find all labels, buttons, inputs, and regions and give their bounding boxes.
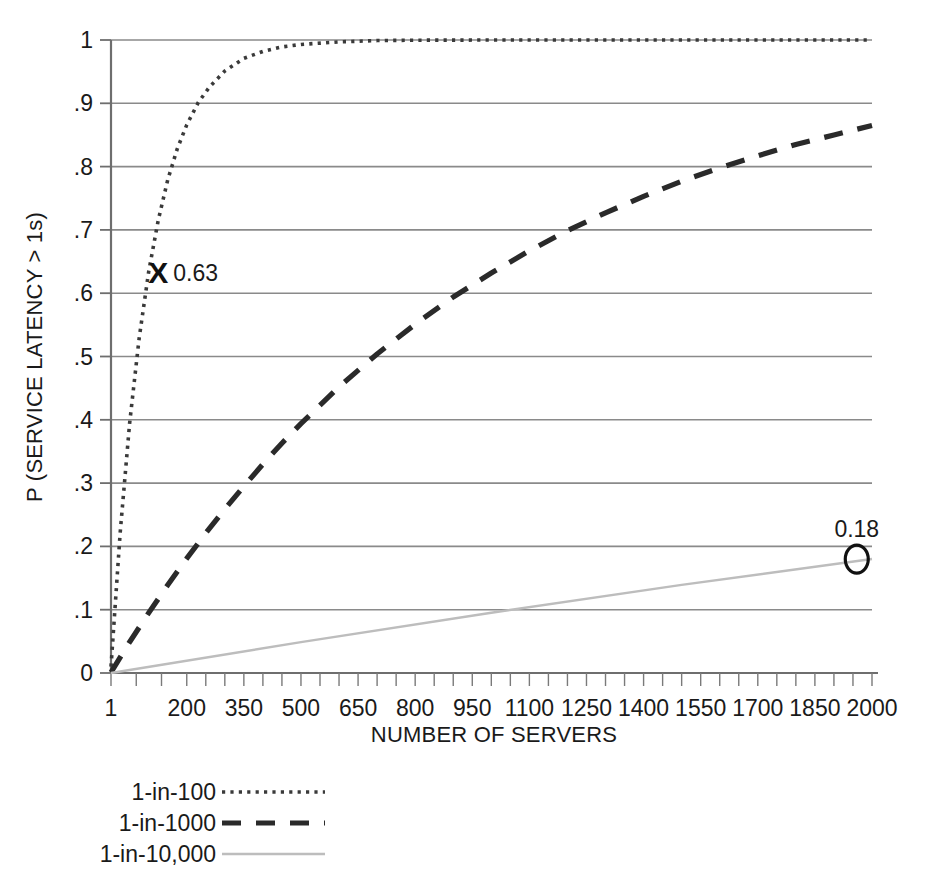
y-tick-label: .8 [74,154,93,180]
x-tick-label: 800 [396,695,434,721]
y-tick-label: .5 [74,344,93,370]
y-tick-label: 1 [80,27,93,53]
x-tick-label: 1550 [675,695,726,721]
y-axis-title: P (SERVICE LATENCY > 1s) [22,212,47,502]
annotation-label: 0.63 [173,260,218,286]
y-tick-label: 0 [80,660,93,686]
x-tick-labels: 1200350500650800950110012501400155017001… [105,695,898,721]
x-tick-label: 1400 [618,695,669,721]
y-tick-label: .1 [74,597,93,623]
series-line-1-in-10-000 [111,559,872,673]
y-tick-labels: 0.1.2.3.4.5.6.7.8.91 [74,27,93,686]
chart-legend: 1-in-1001-in-10001-in-10,000 [100,779,325,867]
legend-item-label: 1-in-100 [132,779,216,805]
chart-svg: 0.1.2.3.4.5.6.7.8.91 1200350500650800950… [0,0,948,882]
x-tick-label: 1700 [732,695,783,721]
chart-container: 0.1.2.3.4.5.6.7.8.91 1200350500650800950… [0,0,948,882]
x-tick-label: 2000 [846,695,897,721]
x-tick-label: 350 [225,695,263,721]
x-tick-label: 1100 [505,695,554,721]
x-tick-label: 500 [282,695,320,721]
annotations: X0.630.18 [148,256,879,573]
legend-item-label: 1-in-10,000 [100,841,216,867]
legend-item-label: 1-in-1000 [119,810,216,836]
x-tick-label: 1850 [789,695,840,721]
y-tick-label: .2 [74,533,93,559]
series-line-1-in-1000 [111,125,872,672]
annotation-marker-x-icon: X [148,256,168,289]
gridlines-horizontal [111,40,872,610]
y-tick-label: .4 [74,407,93,433]
series-line-1-in-100 [111,40,872,667]
annotation-label: 0.18 [834,516,879,542]
x-tick-label: 200 [168,695,206,721]
x-tick-label: 1250 [561,695,612,721]
y-tick-label: .9 [74,90,93,116]
x-tick-label: 650 [339,695,377,721]
x-tick-label: 950 [453,695,491,721]
x-axis-title: NUMBER OF SERVERS [371,722,617,747]
x-tick-label: 1 [105,695,118,721]
y-tick-marks [100,40,111,673]
x-tick-marks [111,673,872,686]
y-tick-label: .6 [74,280,93,306]
y-tick-label: .7 [74,217,93,243]
y-tick-label: .3 [74,470,93,496]
